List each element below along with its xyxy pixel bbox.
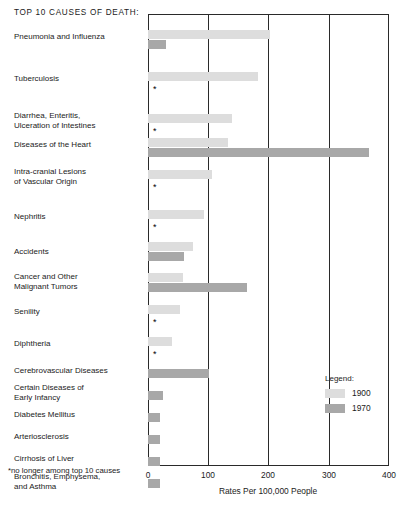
- bar-1970: [148, 283, 247, 292]
- bar-1970: [148, 413, 160, 422]
- bar-1970: [148, 148, 369, 157]
- xtick-400: 400: [382, 470, 396, 480]
- category-label: Bronchitis, Emphysema, and Asthma: [14, 472, 100, 492]
- legend-swatch-1970-icon: [325, 404, 345, 413]
- x-axis-label: Rates Per 100,000 People: [219, 486, 317, 496]
- xtick-0: 0: [146, 470, 151, 480]
- category-label: Diabetes Mellitus: [14, 410, 75, 420]
- bar-1970: [148, 369, 209, 378]
- category-label: Diarrhea, Enteritis, Ulceration of Intes…: [14, 111, 95, 131]
- bar-1970: [148, 40, 166, 49]
- xtick-200: 200: [261, 470, 275, 480]
- bar-1970: [148, 479, 160, 488]
- no-longer-top10-marker: *: [153, 318, 157, 327]
- no-longer-top10-marker: *: [153, 85, 157, 94]
- footnote: *no longer among top 10 causes: [8, 466, 120, 475]
- bar-1900: [148, 30, 270, 39]
- category-label: Cirrhosis of Liver: [14, 454, 74, 464]
- legend-item-1970: 1970: [325, 403, 371, 413]
- category-label: Cerebrovascular Diseases: [14, 366, 108, 376]
- bar-1900: [148, 138, 228, 147]
- no-longer-top10-marker: *: [153, 223, 157, 232]
- bar-1900: [148, 242, 193, 251]
- bar-1900: [148, 273, 183, 282]
- category-label: Senility: [14, 307, 40, 317]
- bar-1900: [148, 170, 212, 179]
- no-longer-top10-marker: *: [153, 183, 157, 192]
- bar-1900: [148, 72, 258, 81]
- legend-heading: Legend:: [325, 374, 371, 383]
- chart-page: TOP 10 CAUSES OF DEATH: Pneumonia and In…: [0, 0, 400, 524]
- bar-1900: [148, 210, 204, 219]
- legend: Legend: 1900 1970: [325, 374, 371, 418]
- legend-item-1900: 1900: [325, 388, 371, 398]
- bar-1900: [148, 337, 172, 346]
- legend-swatch-1900-icon: [325, 389, 345, 398]
- category-label: Certain Diseases of Early Infancy: [14, 383, 84, 403]
- legend-label-1900: 1900: [352, 388, 371, 398]
- xtick-100: 100: [201, 470, 215, 480]
- bar-1970: [148, 435, 160, 444]
- category-label: Diphtheria: [14, 339, 50, 349]
- bar-1970: [148, 391, 163, 400]
- xtick-300: 300: [322, 470, 336, 480]
- no-longer-top10-marker: *: [153, 350, 157, 359]
- bar-1900: [148, 305, 180, 314]
- legend-label-1970: 1970: [352, 403, 371, 413]
- bar-1970: [148, 457, 160, 466]
- category-label: Nephritis: [14, 212, 46, 222]
- category-label: Arteriosclerosis: [14, 432, 69, 442]
- category-label: Cancer and Other Malignant Tumors: [14, 272, 78, 292]
- category-label: Pneumonia and Influenza: [14, 32, 105, 42]
- category-label: Diseases of the Heart: [14, 140, 91, 150]
- no-longer-top10-marker: *: [153, 127, 157, 136]
- bar-1900: [148, 114, 232, 123]
- category-label: Intra-cranial Lesions of Vascular Origin: [14, 167, 86, 187]
- category-label: Tuberculosis: [14, 74, 59, 84]
- bar-1970: [148, 252, 184, 261]
- category-label: Accidents: [14, 247, 49, 257]
